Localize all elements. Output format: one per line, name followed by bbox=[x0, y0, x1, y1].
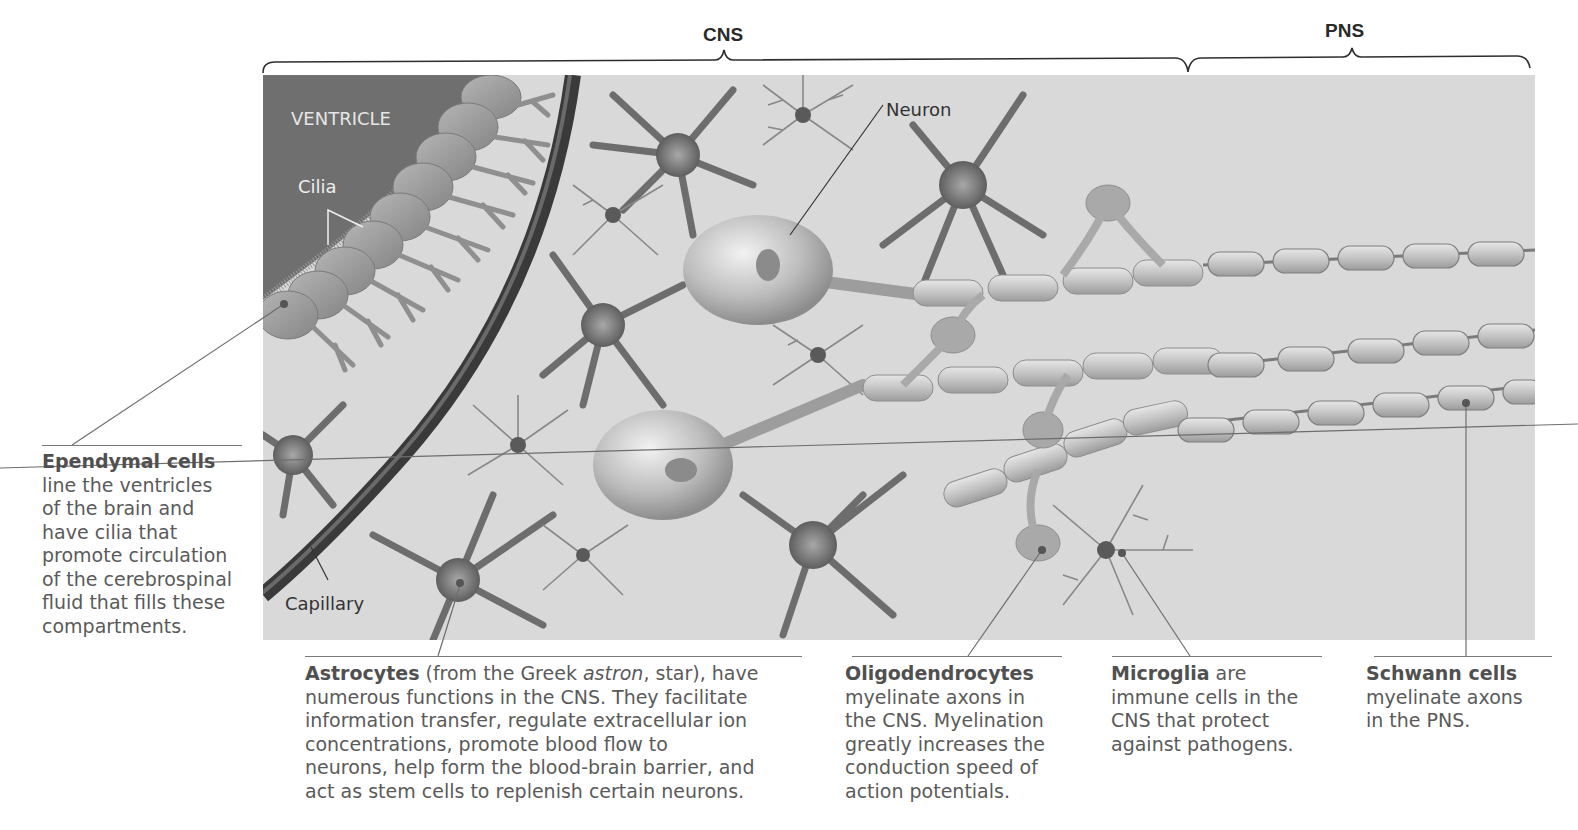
oligodendrocytes-title: Oligodendrocytes bbox=[845, 662, 1034, 684]
ependymal-rule bbox=[42, 445, 242, 446]
oligodendrocytes-rule bbox=[852, 656, 1062, 657]
caption-text: , star), have bbox=[643, 662, 758, 684]
caption-line: the CNS. Myelination bbox=[845, 709, 1044, 731]
ventricle-label: VENTRICLE bbox=[291, 108, 391, 129]
schwann-rule bbox=[1374, 656, 1552, 657]
caption-line: myelinate axons bbox=[1366, 686, 1523, 708]
caption-line: CNS that protect bbox=[1111, 709, 1269, 731]
schwann-caption: Schwann cells myelinate axons in the PNS… bbox=[1366, 662, 1576, 733]
caption-text: are bbox=[1210, 662, 1247, 684]
astrocytes-rule bbox=[305, 656, 802, 657]
caption-italic: astron bbox=[583, 662, 643, 684]
caption-line: line the ventricles bbox=[42, 474, 212, 496]
cilia-label: Cilia bbox=[298, 176, 337, 197]
neuron-label: Neuron bbox=[886, 99, 951, 120]
microglia-title: Microglia bbox=[1111, 662, 1210, 684]
caption-line: of the brain and bbox=[42, 497, 194, 519]
cns-label: CNS bbox=[703, 24, 743, 46]
caption-line: information transfer, regulate extracell… bbox=[305, 709, 747, 731]
caption-line: concentrations, promote blood flow to bbox=[305, 733, 668, 755]
caption-line: myelinate axons in bbox=[845, 686, 1025, 708]
capillary-label: Capillary bbox=[285, 593, 364, 614]
caption-line: neurons, help form the blood-brain barri… bbox=[305, 756, 754, 778]
caption-line: fluid that fills these bbox=[42, 591, 225, 613]
caption-line: compartments. bbox=[42, 615, 187, 637]
neural-tissue-drawing bbox=[263, 75, 1535, 640]
caption-text: (from the Greek bbox=[419, 662, 582, 684]
caption-line: promote circulation bbox=[42, 544, 227, 566]
caption-line: immune cells in the bbox=[1111, 686, 1298, 708]
caption-line: have cilia that bbox=[42, 521, 177, 543]
caption-line: numerous functions in the CNS. They faci… bbox=[305, 686, 748, 708]
pns-label: PNS bbox=[1325, 20, 1364, 42]
caption-line: conduction speed of bbox=[845, 756, 1038, 778]
microglia-rule bbox=[1112, 656, 1322, 657]
oligodendrocytes-caption: Oligodendrocytes myelinate axons in the … bbox=[845, 662, 1095, 803]
caption-line: in the PNS. bbox=[1366, 709, 1470, 731]
astrocytes-caption: Astrocytes (from the Greek astron, star)… bbox=[305, 662, 825, 803]
astrocytes-title: Astrocytes bbox=[305, 662, 419, 684]
microglia-caption: Microglia are immune cells in the CNS th… bbox=[1111, 662, 1351, 756]
schwann-title: Schwann cells bbox=[1366, 662, 1517, 684]
caption-line: against pathogens. bbox=[1111, 733, 1294, 755]
caption-line: greatly increases the bbox=[845, 733, 1045, 755]
caption-line: act as stem cells to replenish certain n… bbox=[305, 780, 744, 802]
glial-cells-illustration: VENTRICLE Cilia Neuron Capillary bbox=[263, 75, 1535, 640]
caption-line: action potentials. bbox=[845, 780, 1010, 802]
ependymal-title: Ependymal cells bbox=[42, 450, 215, 472]
ependymal-caption: Ependymal cells line the ventricles of t… bbox=[42, 450, 272, 638]
caption-line: of the cerebrospinal bbox=[42, 568, 232, 590]
